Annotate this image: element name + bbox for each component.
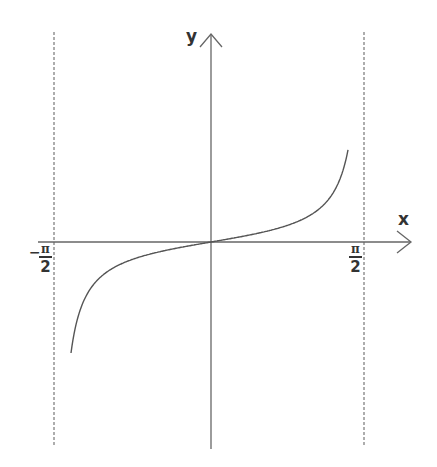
tick-denominator: 2 [350,260,360,275]
tick-numerator: π [41,243,50,255]
tangent-plot [0,0,437,467]
tan-curve [71,150,348,353]
tick-numerator: π [351,243,360,255]
tick-denominator: 2 [40,260,50,275]
x-axis-label: x [398,211,409,228]
y-axis-label: y [186,28,197,45]
